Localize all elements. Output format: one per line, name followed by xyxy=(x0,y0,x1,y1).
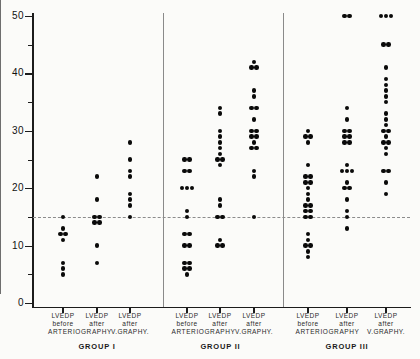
arteriography-shared-label: ARTERIOGRAPHY xyxy=(295,329,359,336)
data-point xyxy=(252,94,257,99)
y-axis-tick-label: 0 xyxy=(0,297,24,308)
data-point xyxy=(92,215,97,220)
data-point xyxy=(218,140,223,145)
data-point xyxy=(308,215,313,220)
data-point xyxy=(347,129,352,134)
y-axis-tick-label: 30 xyxy=(0,125,24,136)
data-point xyxy=(187,243,192,248)
data-point xyxy=(252,215,257,220)
data-point xyxy=(342,140,347,145)
data-point xyxy=(381,42,386,47)
column-label-line: LVEDP xyxy=(118,313,141,320)
y-axis-tick xyxy=(28,217,32,218)
column-label-line: before xyxy=(297,321,318,328)
data-point xyxy=(215,215,220,220)
data-point xyxy=(128,174,133,179)
data-point xyxy=(218,163,223,168)
data-point xyxy=(182,266,187,271)
column-label-line: before xyxy=(176,321,197,328)
column-label-line: before xyxy=(52,321,73,328)
data-point xyxy=(379,14,384,19)
data-point xyxy=(306,192,311,197)
data-point xyxy=(61,261,66,266)
data-point xyxy=(220,157,225,162)
data-point xyxy=(187,169,192,174)
data-point xyxy=(347,134,352,139)
column-label-line: LVEDP xyxy=(335,313,358,320)
y-axis-tick xyxy=(28,102,32,103)
data-point xyxy=(128,215,133,220)
data-point xyxy=(342,186,347,191)
data-point xyxy=(347,14,352,19)
data-point xyxy=(306,140,311,145)
data-point xyxy=(384,88,389,93)
data-point xyxy=(306,238,311,243)
y-axis-tick xyxy=(28,45,32,46)
data-point xyxy=(254,134,259,139)
data-point xyxy=(345,209,350,214)
data-point xyxy=(303,180,308,185)
data-point xyxy=(342,14,347,19)
data-point xyxy=(345,215,350,220)
data-point xyxy=(384,77,389,82)
y-axis-tick xyxy=(25,246,32,247)
y-axis-tick xyxy=(28,160,32,161)
y-axis-tick xyxy=(25,131,32,132)
data-point xyxy=(220,243,225,248)
column-label-line: after xyxy=(246,321,261,328)
data-point xyxy=(306,232,311,237)
data-point xyxy=(308,134,313,139)
data-point xyxy=(306,255,311,260)
data-point xyxy=(345,180,350,185)
data-point xyxy=(63,232,68,237)
data-point xyxy=(384,100,389,105)
column-label-line: LVEDP xyxy=(374,313,397,320)
data-point xyxy=(384,180,389,185)
y-axis-tick xyxy=(25,188,32,189)
y-axis-tick-label: 10 xyxy=(0,240,24,251)
data-point xyxy=(128,169,133,174)
data-point xyxy=(97,215,102,220)
column-label-line: LVEDP xyxy=(208,313,231,320)
data-point xyxy=(306,249,311,254)
column-label-line: LVEDP xyxy=(242,313,265,320)
y-axis-tick-label: 50 xyxy=(0,10,24,21)
group-label: GROUP I xyxy=(78,342,115,351)
data-point xyxy=(345,169,350,174)
data-point xyxy=(185,272,190,277)
data-point xyxy=(386,140,391,145)
group-divider-line xyxy=(163,13,164,307)
column-label-line: after xyxy=(378,321,393,328)
data-point xyxy=(252,88,257,93)
y-axis-tick xyxy=(25,73,32,74)
data-point xyxy=(190,186,195,191)
data-point xyxy=(306,129,311,134)
data-point xyxy=(249,129,254,134)
data-point xyxy=(381,129,386,134)
data-point xyxy=(347,140,352,145)
data-point xyxy=(187,266,192,271)
data-point xyxy=(215,243,220,248)
data-point xyxy=(252,60,257,65)
data-point xyxy=(308,180,313,185)
data-point xyxy=(384,14,389,19)
data-point xyxy=(92,220,97,225)
data-point xyxy=(182,261,187,266)
data-point xyxy=(182,232,187,237)
data-point xyxy=(187,261,192,266)
data-point xyxy=(128,192,133,197)
column-label-line: LVEDP xyxy=(85,313,108,320)
y-axis-tick xyxy=(28,274,32,275)
data-point xyxy=(187,157,192,162)
data-point xyxy=(61,215,66,220)
y-axis-tick xyxy=(25,16,32,17)
data-point xyxy=(252,140,257,145)
data-point xyxy=(384,146,389,151)
data-point xyxy=(254,106,259,111)
data-point xyxy=(303,203,308,208)
y-axis-tick-label: 40 xyxy=(0,67,24,78)
lvedp-dot-plot-figure: 01020304050 LVEDPbeforeLVEDPafterLVEDPaf… xyxy=(0,0,420,359)
x-axis-line xyxy=(32,307,411,308)
data-point xyxy=(386,42,391,47)
data-point xyxy=(180,186,185,191)
